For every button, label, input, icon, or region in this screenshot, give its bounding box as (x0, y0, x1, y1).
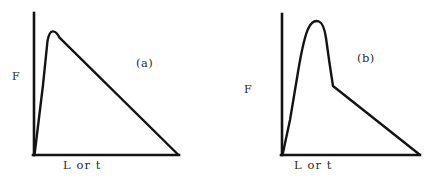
force-curve-a (35, 31, 179, 155)
x-axis-label-b: L or t (294, 160, 333, 172)
plot-a-svg (0, 0, 216, 184)
plot-panel-b: F L or t (b) (216, 0, 433, 184)
panel-tag-b: (b) (357, 53, 375, 65)
panel-tag-a: (a) (136, 58, 153, 70)
figure-canvas: F L or t (a) F L or t (b) (0, 0, 433, 184)
plot-panel-a: F L or t (a) (0, 0, 216, 184)
y-axis-label-a: F (12, 71, 20, 82)
y-axis-label-b: F (244, 84, 252, 95)
force-curve-b (283, 21, 420, 155)
x-axis-label-a: L or t (63, 160, 102, 172)
